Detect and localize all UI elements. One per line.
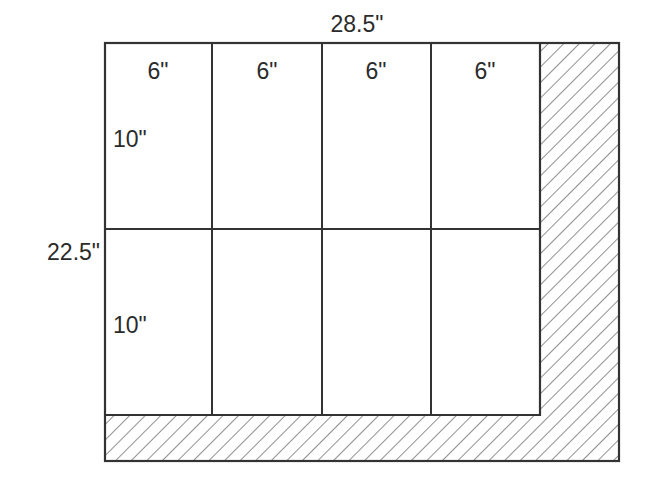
column-label: 6" (475, 58, 496, 84)
row-label: 10" (113, 126, 147, 152)
column-label: 6" (366, 58, 387, 84)
column-label: 6" (257, 58, 278, 84)
row-label: 10" (113, 312, 147, 338)
overall-width-label: 28.5" (331, 11, 384, 37)
overall-height-label: 22.5" (47, 239, 100, 265)
column-label: 6" (148, 58, 169, 84)
layout-diagram: 28.5" 22.5" 6" 6" 6" 6" 10" 10" (0, 0, 653, 489)
hatched-waste-region (105, 43, 619, 461)
